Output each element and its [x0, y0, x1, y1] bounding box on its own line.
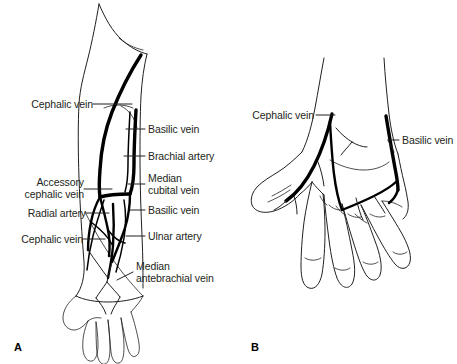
dorsal-metacarpal-vein-7 — [356, 198, 363, 220]
label-brachial-artery: Brachial artery — [148, 150, 214, 162]
panel-letter-a: A — [14, 341, 22, 353]
forearm-vein-anastomosis-4 — [107, 262, 112, 282]
label-median-cubital-vein: Median cubital vein — [148, 172, 199, 196]
panel-b-hand-outline — [251, 58, 410, 288]
cephalic-vein-path-a — [99, 55, 141, 197]
label-median-antebrachial-vein: Median antebrachial vein — [136, 260, 214, 284]
dorsal-venous-network-a3 — [96, 298, 106, 314]
label-basilic-vein-upper: Basilic vein — [148, 123, 199, 135]
dorsal-metacarpal-vein-1 — [336, 128, 352, 142]
panel-b-leader-lines — [316, 115, 399, 152]
dorsal-metacarpal-vein-2 — [341, 142, 352, 155]
basilic-vein-branch-b — [389, 190, 398, 203]
forearm-vein-anastomosis-2 — [108, 230, 125, 243]
panel-a-arm-outline — [76, 4, 147, 302]
anatomy-figure: Cephalic vein Accessory cephalic vein Ra… — [0, 0, 457, 364]
basilic-vein-lower-path — [112, 194, 130, 262]
cephalic-vein-branch-b — [330, 122, 342, 210]
dorsal-metacarpal-vein-6 — [318, 162, 324, 186]
label-basilic-vein-lower: Basilic vein — [148, 204, 199, 216]
cephalic-vein-lower-path — [100, 197, 110, 256]
accessory-cephalic-vein-path — [88, 197, 100, 250]
dorsal-venous-network-a2 — [107, 282, 120, 297]
median-cubital-vein-path — [100, 194, 130, 197]
brachial-artery-path — [125, 112, 130, 192]
dorsal-metacarpal-vein-8 — [374, 196, 385, 213]
forearm-vein-anastomosis-3 — [88, 250, 108, 278]
dorsal-metacarpal-vein-5 — [294, 196, 297, 214]
dorsal-venous-network-a4 — [111, 297, 120, 314]
label-cephalic-vein-upper: Cephalic vein — [8, 98, 93, 110]
panel-a-hand-outline — [63, 296, 143, 364]
dorsal-metacarpal-vein-3 — [352, 142, 367, 147]
forearm-vein-anastomosis-1 — [91, 222, 113, 246]
dorsal-metacarpal-vein-4 — [274, 201, 286, 210]
panel-letter-b: B — [251, 341, 259, 353]
basilic-vein-path-b — [386, 116, 398, 190]
ulnar-artery-path — [116, 200, 126, 272]
radial-artery-path — [87, 200, 104, 270]
label-accessory-cephalic-vein: Accessory cephalic vein — [8, 176, 84, 200]
median-antebrachial-vein-path — [108, 204, 114, 278]
panel-a-leader-lines — [83, 104, 145, 280]
cephalic-vein-path-b — [286, 114, 332, 201]
label-radial-artery: Radial artery — [8, 207, 86, 219]
dorsal-venous-network-a — [96, 282, 107, 298]
label-ulnar-artery: Ulnar artery — [148, 230, 202, 242]
label-cephalic-vein-lower: Cephalic vein — [8, 233, 83, 245]
basilic-vein-path-a — [130, 110, 136, 194]
label-cephalic-vein-hand: Cephalic vein — [240, 109, 314, 121]
label-basilic-vein-hand: Basilic vein — [402, 134, 453, 146]
dorsal-venous-arch-b — [342, 181, 397, 210]
